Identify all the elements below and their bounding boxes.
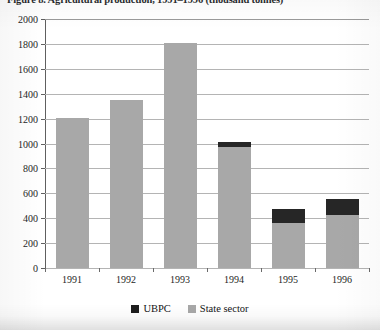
y-tick-800 xyxy=(41,168,45,169)
y-tick-label-1000: 1000 xyxy=(18,138,38,149)
x-tick-1992 xyxy=(99,268,100,272)
bar-segment-state-sector-1996[interactable] xyxy=(326,215,359,268)
bar-segment-ubpc-1995[interactable] xyxy=(272,209,305,223)
bar-group-1992[interactable] xyxy=(110,19,143,268)
y-tick-200 xyxy=(41,243,45,244)
y-tick-label-1400: 1400 xyxy=(18,88,38,99)
x-tick-end xyxy=(369,268,370,272)
legend-item-state-sector[interactable]: State sector xyxy=(188,303,249,314)
y-tick-400 xyxy=(41,218,45,219)
y-tick-label-1800: 1800 xyxy=(18,38,38,49)
y-tick-1400 xyxy=(41,94,45,95)
x-axis-label-1992: 1992 xyxy=(116,274,136,285)
chart-legend: UBPCState sector xyxy=(0,303,380,314)
x-axis-label-1994: 1994 xyxy=(224,274,244,285)
y-tick-1800 xyxy=(41,44,45,45)
legend-label: State sector xyxy=(200,303,249,314)
gridline-200 xyxy=(45,243,369,244)
stacked-bar-chart: 0200400600800100012001400160018002000 19… xyxy=(0,0,380,330)
y-tick-label-1200: 1200 xyxy=(18,113,38,124)
y-tick-label-0: 0 xyxy=(33,263,38,274)
y-tick-1200 xyxy=(41,119,45,120)
figure-caption: Figure 8. Agricultural production, 1991–… xyxy=(7,0,373,7)
legend-swatch-icon xyxy=(131,305,139,313)
y-tick-1000 xyxy=(41,144,45,145)
gridline-1800 xyxy=(45,44,369,45)
x-tick-1993 xyxy=(153,268,154,272)
bar-segment-ubpc-1996[interactable] xyxy=(326,199,359,215)
gridline-1400 xyxy=(45,94,369,95)
x-tick-1995 xyxy=(261,268,262,272)
y-tick-label-600: 600 xyxy=(23,188,38,199)
x-tick-1994 xyxy=(207,268,208,272)
bar-group-1991[interactable] xyxy=(56,19,89,268)
bar-segment-state-sector-1994[interactable] xyxy=(218,147,251,268)
bar-group-1996[interactable] xyxy=(326,19,359,268)
x-tick-1991 xyxy=(45,268,46,272)
bar-segment-state-sector-1995[interactable] xyxy=(272,223,305,268)
bar-segment-state-sector-1992[interactable] xyxy=(110,100,143,268)
x-axis-label-1995: 1995 xyxy=(278,274,298,285)
gridline-600 xyxy=(45,193,369,194)
gridline-800 xyxy=(45,168,369,169)
gridline-1600 xyxy=(45,69,369,70)
y-tick-600 xyxy=(41,193,45,194)
bar-group-1995[interactable] xyxy=(272,19,305,268)
gridline-2000 xyxy=(45,19,369,20)
bar-group-1994[interactable] xyxy=(218,19,251,268)
bar-segment-state-sector-1993[interactable] xyxy=(164,43,197,268)
x-axis-label-1991: 1991 xyxy=(62,274,82,285)
y-tick-2000 xyxy=(41,19,45,20)
gridline-400 xyxy=(45,218,369,219)
bar-segment-state-sector-1991[interactable] xyxy=(56,118,89,268)
y-tick-label-400: 400 xyxy=(23,213,38,224)
legend-swatch-icon xyxy=(188,305,196,313)
y-tick-label-1600: 1600 xyxy=(18,63,38,74)
bar-segment-ubpc-1994[interactable] xyxy=(218,142,251,148)
y-tick-label-2000: 2000 xyxy=(18,14,38,25)
gridline-1000 xyxy=(45,144,369,145)
bar-group-1993[interactable] xyxy=(164,19,197,268)
x-axis-label-1996: 1996 xyxy=(332,274,352,285)
plot-area: 0200400600800100012001400160018002000 xyxy=(45,19,369,268)
x-axis-label-1993: 1993 xyxy=(170,274,190,285)
y-tick-1600 xyxy=(41,69,45,70)
x-tick-1996 xyxy=(315,268,316,272)
gridline-1200 xyxy=(45,119,369,120)
legend-item-ubpc[interactable]: UBPC xyxy=(131,303,170,314)
y-tick-label-800: 800 xyxy=(23,163,38,174)
y-tick-label-200: 200 xyxy=(23,238,38,249)
legend-label: UBPC xyxy=(143,303,170,314)
